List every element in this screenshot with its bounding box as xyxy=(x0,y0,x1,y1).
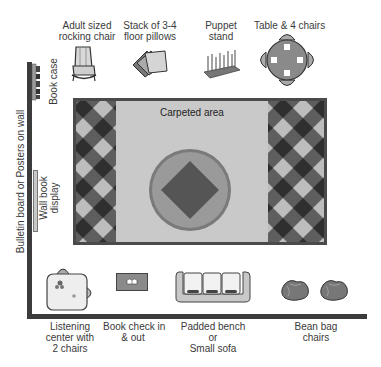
rocking-chair-label-line1: Adult sized xyxy=(52,20,122,31)
carpet xyxy=(73,98,327,245)
table-chairs-icon xyxy=(257,31,317,89)
listening-center-label-line2: center with xyxy=(40,332,100,343)
floor-pillows-label-line1: Stack of 3-4 xyxy=(115,20,185,31)
bulletin-board-label: Bulletin board or Posters on wall xyxy=(15,92,26,272)
bean-bag-label-line1: Bean bag xyxy=(288,321,344,332)
table-chairs-label: Table & 4 chairs xyxy=(254,20,320,31)
bean-bag-label: Bean bag chairs xyxy=(288,321,344,343)
bean-bag-icon xyxy=(280,279,310,301)
rocking-chair-label-line2: rocking chair xyxy=(52,31,122,42)
book-check-label-line2: & out xyxy=(103,332,163,343)
bean-bag-icon xyxy=(319,279,349,301)
listening-center-label-line1: Listening xyxy=(40,321,100,332)
book-check-label-line1: Book check in xyxy=(103,321,163,332)
puppet-stand-label-line1: Puppet xyxy=(198,20,244,31)
floor-pillows-label: Stack of 3-4 floor pillows xyxy=(115,20,185,42)
pillows-icon xyxy=(131,47,171,79)
listening-center-label-line3: 2 chairs xyxy=(40,343,100,354)
puppet-stand-icon xyxy=(204,48,240,80)
padded-bench-label-line2: or xyxy=(178,332,248,343)
padded-bench-label-line1: Padded bench xyxy=(178,321,248,332)
wall-display-label-line1: Wall book xyxy=(38,166,49,230)
bottom-wall xyxy=(27,314,367,319)
carpet-label: Carpeted area xyxy=(160,107,224,118)
rocking-chair-label: Adult sized rocking chair xyxy=(52,20,122,42)
floor-pillows-label-line2: floor pillows xyxy=(115,31,185,42)
listening-center-label: Listening center with 2 chairs xyxy=(40,321,100,354)
padded-bench-label-line3: Small sofa xyxy=(178,343,248,354)
book-check-label: Book check in & out xyxy=(103,321,163,343)
rocking-chair-icon xyxy=(70,44,98,84)
wall-display-label-line2: display xyxy=(49,166,60,230)
left-wall xyxy=(27,62,32,318)
bookcase-icon xyxy=(32,64,42,100)
bean-bag-label-line2: chairs xyxy=(288,332,344,343)
listening-center-icon xyxy=(45,265,97,311)
bookcase-label: Book case xyxy=(48,57,59,107)
sofa-icon xyxy=(175,270,251,304)
padded-bench-label: Padded bench or Small sofa xyxy=(178,321,248,354)
book-check-icon xyxy=(116,273,148,291)
wall-display-label: Wall book display xyxy=(38,166,62,230)
puppet-stand-label-line2: stand xyxy=(198,31,244,42)
puppet-stand-label: Puppet stand xyxy=(198,20,244,42)
